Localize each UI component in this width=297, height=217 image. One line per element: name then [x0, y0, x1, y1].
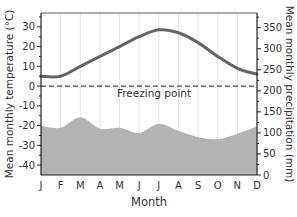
- climate-chart: Freezing point-40-30-20-1001020300501001…: [0, 0, 297, 217]
- left-tick-label: -30: [19, 140, 35, 151]
- month-tick-label: A: [96, 180, 103, 191]
- month-tick-label: J: [39, 180, 43, 191]
- precipitation-area: [41, 117, 257, 175]
- left-tick-label: -20: [19, 120, 35, 131]
- month-tick-label: J: [156, 180, 160, 191]
- month-tick-label: M: [115, 180, 124, 191]
- month-tick-label: A: [175, 180, 182, 191]
- month-tick-label: N: [234, 180, 241, 191]
- left-tick-label: 30: [22, 21, 35, 32]
- right-tick-label: 350: [263, 22, 282, 33]
- left-tick-label: -10: [19, 100, 35, 111]
- right-tick-label: 300: [263, 43, 282, 54]
- right-tick-label: 200: [263, 85, 282, 96]
- left-tick-label: 20: [22, 41, 35, 52]
- left-tick-label: 0: [29, 81, 35, 92]
- right-tick-label: 150: [263, 106, 282, 117]
- left-tick-label: -40: [19, 160, 35, 171]
- month-tick-label: O: [214, 180, 222, 191]
- month-tick-label: F: [58, 180, 64, 191]
- left-tick-label: 10: [22, 61, 35, 72]
- right-tick-label: 50: [263, 148, 276, 159]
- freezing-point-label: Freezing point: [117, 87, 191, 99]
- right-axis-title: Mean monthly precipitation (mm): [284, 6, 296, 183]
- x-axis-title: Month: [131, 195, 167, 209]
- month-tick-label: S: [195, 180, 201, 191]
- right-tick-label: 100: [263, 127, 282, 138]
- temperature-line: [41, 30, 257, 77]
- right-tick-label: 250: [263, 64, 282, 75]
- right-tick-label: 0: [263, 170, 269, 181]
- month-tick-label: M: [76, 180, 85, 191]
- month-tick-label: J: [137, 180, 141, 191]
- left-axis-title: Mean monthly temperature (°C): [3, 10, 15, 179]
- month-tick-label: D: [253, 180, 261, 191]
